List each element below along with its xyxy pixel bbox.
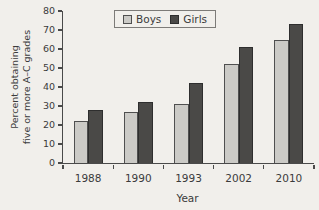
y-axis-tick xyxy=(58,29,62,30)
x-axis-tick xyxy=(313,165,314,170)
y-axis-tick xyxy=(58,67,62,68)
y-axis-title-line1: Percent obtaining xyxy=(9,30,21,144)
x-axis-category-label: 1988 xyxy=(75,173,102,184)
y-axis-tick-label: 40 xyxy=(43,82,55,92)
y-axis-tick xyxy=(58,10,62,11)
y-axis-tick-label: 60 xyxy=(43,44,55,54)
y-axis-tick-label: 20 xyxy=(43,120,55,130)
y-axis-tick xyxy=(58,86,62,87)
bar-boys-2010 xyxy=(274,40,289,164)
x-axis-tick xyxy=(113,165,114,170)
y-axis-tick xyxy=(58,162,62,163)
bar-girls-1990 xyxy=(138,102,153,163)
y-axis-tick xyxy=(58,105,62,106)
x-axis-tick xyxy=(62,165,63,170)
x-axis-tick xyxy=(163,165,164,170)
bar-boys-1990 xyxy=(124,112,139,163)
y-axis-tick-label: 10 xyxy=(43,139,55,149)
y-axis-tick-label: 70 xyxy=(43,25,55,35)
x-axis-category-label: 2002 xyxy=(225,173,252,184)
bar-girls-2010 xyxy=(289,24,304,163)
x-axis-category-label: 1993 xyxy=(175,173,202,184)
y-axis-tick-label: 80 xyxy=(43,6,55,16)
x-axis-tick xyxy=(263,165,264,170)
bar-girls-2002 xyxy=(239,47,254,163)
plot-area: 0102030405060708019881990199320022010 xyxy=(62,11,314,164)
y-axis-tick-label: 0 xyxy=(49,158,55,168)
y-axis-title: Percent obtaining five or more A–C grade… xyxy=(9,30,33,144)
bar-boys-2002 xyxy=(224,64,239,163)
bar-girls-1993 xyxy=(189,83,204,163)
y-axis-tick xyxy=(58,124,62,125)
y-axis-tick-label: 50 xyxy=(43,63,55,73)
y-axis-title-line2: five or more A–C grades xyxy=(21,30,33,144)
x-axis-category-label: 2010 xyxy=(276,173,303,184)
y-axis-tick xyxy=(58,48,62,49)
bar-boys-1988 xyxy=(74,121,89,163)
bar-girls-1988 xyxy=(88,110,103,163)
y-axis-tick-label: 30 xyxy=(43,101,55,111)
bar-chart-figure: Percent obtaining five or more A–C grade… xyxy=(0,0,319,210)
x-axis-title: Year xyxy=(62,192,313,204)
x-axis-tick xyxy=(213,165,214,170)
y-axis-tick xyxy=(58,143,62,144)
x-axis-category-label: 1990 xyxy=(125,173,152,184)
bar-boys-1993 xyxy=(174,104,189,163)
